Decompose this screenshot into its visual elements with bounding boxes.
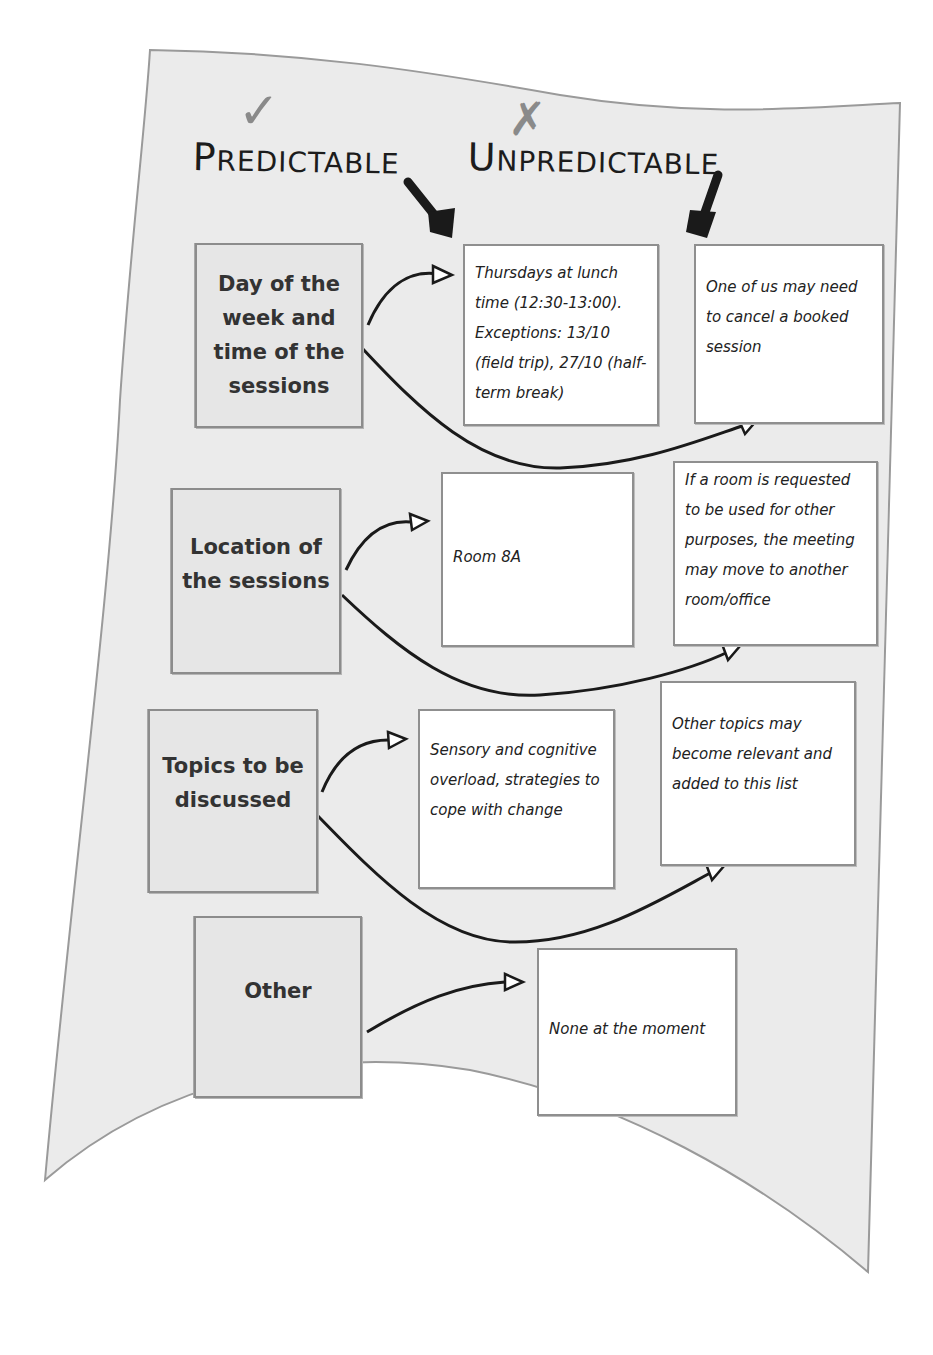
- category-label: Day of the week and time of the sessions: [197, 267, 361, 426]
- heading-rest: REDICTABLE: [216, 144, 400, 180]
- note-text: Thursdays at lunch time (12:30-13:00). E…: [475, 258, 647, 408]
- note-text: Other topics may become relevant and add…: [672, 709, 844, 799]
- category-label: Location of the sessions: [173, 530, 339, 672]
- predictable-note-other: None at the moment: [537, 948, 737, 1116]
- note-text: If a room is requested to be used for ot…: [685, 465, 866, 615]
- paper-background: [0, 0, 933, 1355]
- category-box-topics: Topics to be discussed: [148, 709, 318, 893]
- unpredictable-note-topics: Other topics may become relevant and add…: [660, 681, 856, 866]
- predictable-note-topics: Sensory and cognitive overload, strategi…: [418, 709, 615, 889]
- predictable-note-location: Room 8A: [441, 472, 634, 647]
- category-label: Other: [244, 974, 311, 1096]
- note-text: None at the moment: [549, 1014, 725, 1044]
- category-box-other: Other: [194, 916, 362, 1098]
- category-box-location: Location of the sessions: [171, 488, 341, 674]
- predictable-note-day-time: Thursdays at lunch time (12:30-13:00). E…: [463, 244, 659, 426]
- heading-initial: U: [467, 135, 497, 179]
- heading-unpredictable: UNPREDICTABLE: [467, 135, 719, 183]
- unpredictable-note-day-time: One of us may need to cancel a booked se…: [694, 244, 884, 424]
- check-icon: ✓: [238, 82, 280, 140]
- note-text: Room 8A: [453, 542, 622, 572]
- heading-predictable: PREDICTABLE: [192, 135, 400, 183]
- category-box-day-time: Day of the week and time of the sessions: [195, 243, 363, 428]
- heading-rest: NPREDICTABLE: [496, 145, 719, 182]
- note-text: One of us may need to cancel a booked se…: [706, 272, 872, 362]
- category-label: Topics to be discussed: [150, 749, 316, 891]
- unpredictable-note-location: If a room is requested to be used for ot…: [673, 461, 878, 646]
- note-text: Sensory and cognitive overload, strategi…: [430, 735, 603, 825]
- heading-initial: P: [192, 135, 217, 179]
